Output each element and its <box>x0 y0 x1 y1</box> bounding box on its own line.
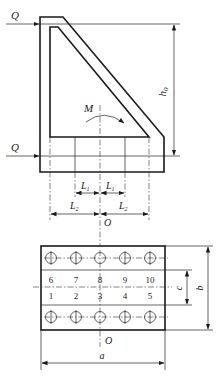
origin-label-top: O <box>104 217 111 228</box>
a-dimension: a <box>41 330 165 370</box>
svg-text:10: 10 <box>146 275 156 285</box>
force-q-top-label: Q <box>11 9 19 21</box>
bolt-plate-plan: 6 7 8 9 10 1 2 3 4 5 <box>33 246 172 347</box>
force-q-bottom-label: Q <box>11 141 19 153</box>
moment-label: M <box>83 102 94 114</box>
force-q-bottom: Q <box>6 141 180 156</box>
bracket-outer-outline <box>40 17 164 172</box>
svg-text:h0: h0 <box>156 87 170 97</box>
bolt-numbers-bottom: 1 2 3 4 5 <box>49 291 153 301</box>
bracket-diagram: Q Q M h0 L1 L1 L2 L2 O <box>0 0 219 381</box>
svg-text:3: 3 <box>98 291 103 301</box>
svg-text:6: 6 <box>49 275 54 285</box>
c-label: c <box>173 285 184 290</box>
b-label: b <box>194 286 205 291</box>
svg-text:1: 1 <box>49 291 54 301</box>
bolt-numbers-top: 6 7 8 9 10 <box>49 275 155 285</box>
bracket-elevation <box>40 17 164 246</box>
svg-text:4: 4 <box>123 291 128 301</box>
force-q-top: Q <box>6 9 180 24</box>
a-label: a <box>100 350 105 361</box>
plate-outline <box>41 246 165 330</box>
svg-text:9: 9 <box>123 275 128 285</box>
svg-text:L1: L1 <box>105 180 115 192</box>
origin-label-bottom: O <box>105 335 112 346</box>
svg-text:L2: L2 <box>118 200 128 212</box>
svg-text:5: 5 <box>148 291 153 301</box>
svg-text:2: 2 <box>74 291 79 301</box>
l2-dimension: L2 L2 <box>51 200 148 214</box>
svg-text:8: 8 <box>98 275 103 285</box>
bracket-inner-outline <box>50 27 149 137</box>
svg-text:L1: L1 <box>80 180 90 192</box>
svg-text:L2: L2 <box>69 200 79 212</box>
svg-text:7: 7 <box>74 275 79 285</box>
height-dimension: h0 <box>156 25 174 155</box>
moment-arrow: M <box>83 102 124 123</box>
c-dimension: c <box>165 270 192 305</box>
